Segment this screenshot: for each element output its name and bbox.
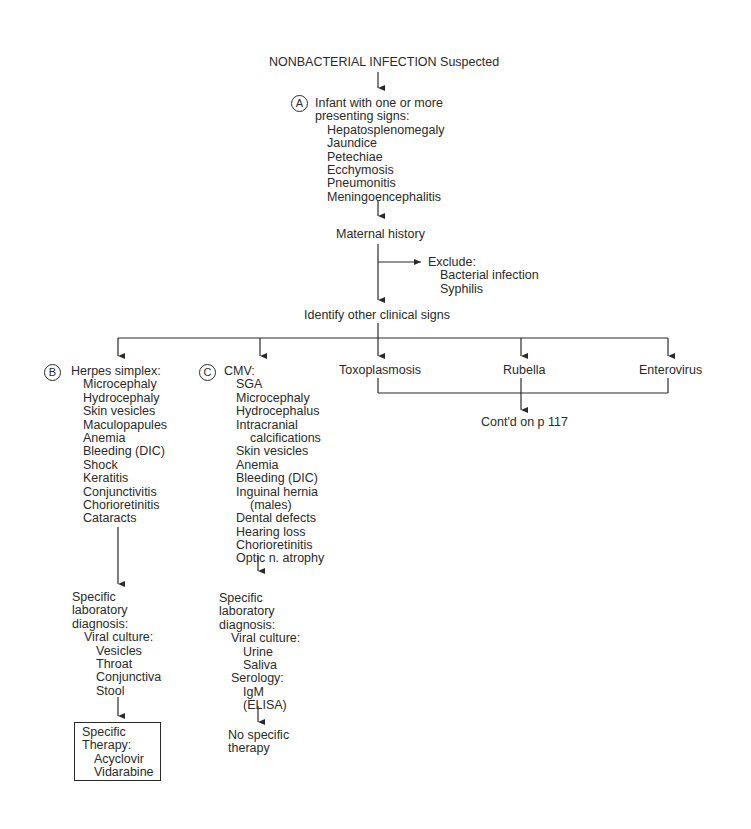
cmv-sign: Microcephaly (224, 392, 324, 405)
cmv-sign: SGA (224, 378, 324, 391)
identify-clinical-signs: Identify other clinical signs (304, 309, 450, 322)
enterovirus-node: Enterovirus (639, 364, 702, 377)
herpes-sign: Skin vesicles (71, 405, 167, 418)
cmv-sign: Intracranial (224, 419, 324, 432)
cmv-sign: Dental defects (224, 512, 324, 525)
culture-site: Saliva (219, 659, 300, 672)
sign-item: Meningoencephalitis (315, 191, 444, 204)
cmv-sign: Hearing loss (224, 526, 324, 539)
culture-site: Throat (72, 658, 161, 671)
rubella-node: Rubella (503, 364, 545, 377)
herpes-lab-diagnosis: Specific laboratory diagnosis: Viral cul… (72, 591, 161, 698)
therapy-drug: Vidarabine (82, 766, 154, 779)
cmv-label: CMV: (224, 365, 324, 378)
marker-b: B (44, 364, 61, 381)
maternal-history: Maternal history (336, 228, 425, 241)
culture-site: Vesicles (72, 645, 161, 658)
cmv-sign: Skin vesicles (224, 445, 324, 458)
diagram-title: NONBACTERIAL INFECTION Suspected (269, 56, 499, 69)
cmv-sign: Anemia (224, 459, 324, 472)
herpes-sign: Anemia (71, 432, 167, 445)
serology-test: IgM (219, 686, 300, 699)
specific-therapy-box: Specific Therapy: Acyclovir Vidarabine (74, 722, 161, 781)
cmv-sign: Chorioretinitis (224, 539, 324, 552)
herpes-sign: Bleeding (DIC) (71, 445, 167, 458)
serology-label: Serology: (219, 672, 300, 685)
exclude-item: Syphilis (428, 283, 539, 296)
lab-heading-line: diagnosis: (219, 619, 300, 632)
culture-site: Urine (219, 646, 300, 659)
lab-heading-line: diagnosis: (72, 618, 161, 631)
herpes-label: Herpes simplex: (71, 365, 167, 378)
sign-item: Pneumonitis (315, 177, 444, 190)
sign-item: Hepatosplenomegaly (315, 124, 444, 137)
cmv-sign-continuation: calcifications (224, 432, 324, 445)
herpes-sign: Conjunctivitis (71, 486, 167, 499)
exclude-block: Exclude: Bacterial infection Syphilis (428, 256, 539, 296)
continued-reference: Cont'd on p 117 (481, 416, 568, 429)
herpes-sign: Chorioretinitis (71, 499, 167, 512)
cmv-sign-continuation: (males) (224, 499, 324, 512)
cmv-lab-diagnosis: Specific laboratory diagnosis: Viral cul… (219, 592, 300, 713)
herpes-sign: Shock (71, 459, 167, 472)
lab-heading-line: Specific (72, 591, 161, 604)
toxoplasmosis-node: Toxoplasmosis (339, 364, 421, 377)
node-a-heading-line: presenting signs: (315, 110, 444, 123)
node-a-heading-line: Infant with one or more (315, 97, 444, 110)
therapy-drug: Acyclovir (82, 753, 154, 766)
no-therapy-line: No specific (228, 729, 289, 742)
therapy-heading-line: Specific (82, 726, 154, 739)
lab-heading-line: laboratory (72, 604, 161, 617)
lab-heading-line: laboratory (219, 605, 300, 618)
node-a-presenting-signs: Infant with one or more presenting signs… (315, 97, 444, 204)
serology-test: (ELISA) (219, 699, 300, 712)
herpes-simplex-block: Herpes simplex: Microcephaly Hydrocephal… (71, 365, 167, 526)
herpes-sign: Hydrocephaly (71, 392, 167, 405)
marker-a: A (291, 95, 308, 112)
exclude-label: Exclude: (428, 256, 539, 269)
cmv-sign: Optic n. atrophy (224, 552, 324, 565)
exclude-item: Bacterial infection (428, 269, 539, 282)
sign-item: Jaundice (315, 137, 444, 150)
cmv-sign: Inguinal hernia (224, 486, 324, 499)
no-therapy-line: therapy (228, 742, 289, 755)
viral-culture-label: Viral culture: (72, 631, 161, 644)
sign-item: Petechiae (315, 151, 444, 164)
herpes-sign: Keratitis (71, 472, 167, 485)
cmv-block: CMV: SGA Microcephaly Hydrocephalus Intr… (224, 365, 324, 566)
therapy-heading-line: Therapy: (82, 739, 154, 752)
herpes-sign: Cataracts (71, 512, 167, 525)
herpes-sign: Microcephaly (71, 378, 167, 391)
marker-c: C (199, 364, 216, 381)
cmv-sign: Hydrocephalus (224, 405, 324, 418)
culture-site: Stool (72, 685, 161, 698)
cmv-no-therapy: No specific therapy (228, 729, 289, 756)
viral-culture-label: Viral culture: (219, 632, 300, 645)
culture-site: Conjunctiva (72, 671, 161, 684)
cmv-sign: Bleeding (DIC) (224, 472, 324, 485)
herpes-sign: Maculopapules (71, 419, 167, 432)
sign-item: Ecchymosis (315, 164, 444, 177)
lab-heading-line: Specific (219, 592, 300, 605)
